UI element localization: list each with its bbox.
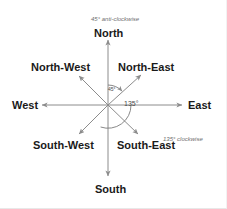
compass-diagram: North North-East East South-East South S… bbox=[0, 0, 227, 209]
direction-label-east: East bbox=[188, 99, 211, 111]
direction-label-south: South bbox=[95, 183, 126, 195]
arrow-south-west bbox=[79, 105, 108, 134]
angle-label-45: 45° bbox=[108, 86, 116, 92]
direction-label-south-west: South-West bbox=[33, 139, 94, 151]
direction-label-north-east: North-East bbox=[118, 61, 174, 73]
annotation-clockwise: 135° clockwise bbox=[163, 136, 203, 143]
direction-label-north-west: North-West bbox=[31, 61, 90, 73]
direction-label-north: North bbox=[94, 27, 123, 39]
angle-label-135: 135° bbox=[124, 100, 138, 108]
direction-label-west: West bbox=[12, 99, 38, 111]
arrow-north-west bbox=[79, 76, 108, 105]
arrow-south-east bbox=[108, 105, 138, 134]
annotation-anti-clockwise: 45° anti-clockwise bbox=[91, 16, 139, 23]
